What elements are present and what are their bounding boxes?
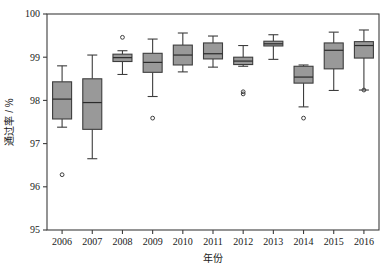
- x-tick-label: 2015: [324, 236, 344, 247]
- y-tick-label: 95: [30, 224, 40, 235]
- x-tick-label: 2010: [173, 236, 193, 247]
- box-group: [264, 35, 283, 60]
- box-group: [324, 32, 343, 90]
- chart-canvas: 9596979899100通过率 / %20062007200820092010…: [0, 0, 386, 272]
- x-tick-label: 2008: [112, 236, 132, 247]
- outlier-point: [121, 35, 125, 39]
- boxplot-chart: 9596979899100通过率 / %20062007200820092010…: [0, 0, 386, 272]
- x-tick-label: 2007: [82, 236, 102, 247]
- box-rect: [53, 82, 72, 119]
- box-rect: [354, 42, 373, 58]
- box-group: [204, 36, 223, 67]
- y-tick-label: 97: [30, 138, 40, 149]
- y-tick-label: 98: [30, 95, 40, 106]
- box-group: [294, 65, 313, 120]
- outlier-point: [302, 116, 306, 120]
- box-group: [143, 39, 162, 120]
- x-tick-label: 2011: [203, 236, 223, 247]
- box-rect: [324, 43, 343, 69]
- box-rect: [83, 79, 102, 130]
- box-group: [173, 33, 192, 72]
- outlier-point: [151, 116, 155, 120]
- x-tick-label: 2006: [52, 236, 72, 247]
- box-group: [354, 30, 373, 92]
- box-group: [113, 35, 132, 74]
- outlier-point: [60, 173, 64, 177]
- x-axis-title: 年份: [203, 252, 223, 264]
- box-group: [83, 55, 102, 159]
- y-tick-label: 96: [30, 181, 40, 192]
- x-tick-label: 2014: [294, 236, 314, 247]
- y-axis-title: 通过率 / %: [3, 98, 15, 145]
- x-axis: 2006200720082009201020112012201320142015…: [52, 230, 374, 247]
- x-tick-label: 2009: [143, 236, 163, 247]
- box-group: [234, 46, 253, 96]
- box-rect: [294, 66, 313, 83]
- boxes-layer: [53, 30, 374, 177]
- x-tick-label: 2012: [233, 236, 253, 247]
- box-rect: [204, 43, 223, 59]
- y-tick-label: 99: [30, 52, 40, 63]
- y-tick-label: 100: [25, 8, 40, 19]
- x-tick-label: 2016: [354, 236, 374, 247]
- y-axis: 9596979899100: [25, 8, 47, 235]
- box-group: [53, 66, 72, 177]
- x-tick-label: 2013: [263, 236, 283, 247]
